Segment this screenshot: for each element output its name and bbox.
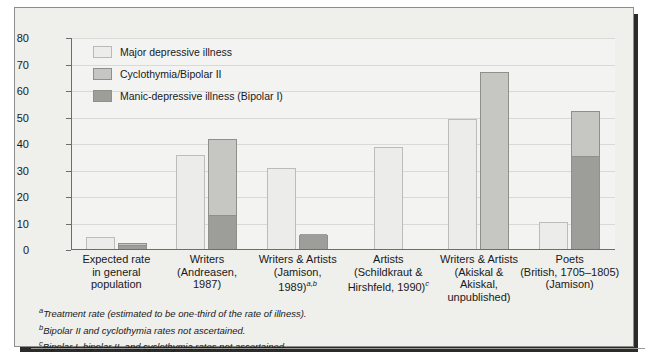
x-axis-label-line: unpublished)	[420, 291, 539, 304]
bar-segment-manic-depressive-bipolar-i	[209, 215, 236, 249]
bar-major-depressive-illness[interactable]	[448, 119, 477, 250]
bar-group	[434, 38, 525, 250]
footnote-divider	[31, 348, 645, 349]
footnotes: aTreatment rate (estimated to be one-thi…	[39, 304, 619, 354]
bar-major-depressive-illness[interactable]	[539, 222, 568, 250]
x-axis-line	[71, 249, 615, 250]
y-tick-label: 60	[0, 86, 29, 96]
y-tick-label: 70	[0, 60, 29, 70]
bar-stacked-bipolar[interactable]	[571, 111, 600, 250]
figure-container: Percentage Major depressive illnessCyclo…	[0, 0, 651, 356]
y-axis-line	[71, 38, 72, 250]
bar-major-depressive-illness[interactable]	[86, 237, 115, 250]
footnote: bBipolar II and cyclothymia rates not as…	[39, 321, 619, 338]
chart-panel: Percentage Major depressive illnessCyclo…	[14, 7, 634, 347]
y-tick-label: 0	[0, 245, 29, 255]
bar-group	[343, 38, 434, 250]
y-tick-label: 40	[0, 139, 29, 149]
x-axis-label: Poets(British, 1705–1805)(Jamison)	[510, 253, 629, 291]
y-tick-label: 80	[0, 33, 29, 43]
x-axis-label-line: (Jamison)	[510, 278, 629, 291]
bar-segment-manic-depressive-bipolar-i	[572, 156, 599, 249]
legend-label: Major depressive illness	[120, 46, 232, 58]
y-tick-label: 30	[0, 166, 29, 176]
legend-swatch	[93, 68, 112, 80]
y-tick-label: 20	[0, 192, 29, 202]
bar-major-depressive-illness[interactable]	[267, 168, 296, 250]
footnote: aTreatment rate (estimated to be one-thi…	[39, 304, 619, 321]
bar-stacked-bipolar[interactable]	[480, 72, 509, 250]
legend-item[interactable]: Major depressive illness	[93, 46, 283, 58]
footnote: cBipolar I, bipolar II, and cyclothymia …	[39, 337, 619, 354]
legend-item[interactable]: Cyclothymia/Bipolar II	[93, 68, 283, 80]
y-tick-mark	[66, 250, 71, 251]
x-axis-label-line: (British, 1705–1805)	[510, 266, 629, 279]
x-axis-category-labels: Expected ratein generalpopulationWriters…	[71, 253, 615, 309]
legend-item[interactable]: Manic-depressive illness (Bipolar I)	[93, 90, 283, 102]
legend-swatch	[93, 46, 112, 58]
plot-area: Major depressive illnessCyclothymia/Bipo…	[71, 38, 615, 250]
bar-group	[524, 38, 615, 250]
footnote-text: Treatment rate (estimated to be one-thir…	[43, 308, 306, 319]
y-tick-label: 10	[0, 219, 29, 229]
bar-stacked-bipolar[interactable]	[208, 139, 237, 250]
legend-label: Manic-depressive illness (Bipolar I)	[120, 90, 283, 102]
bar-major-depressive-illness[interactable]	[176, 155, 205, 250]
chart-legend: Major depressive illnessCyclothymia/Bipo…	[93, 46, 283, 112]
legend-swatch	[93, 90, 112, 102]
footnote-text: Bipolar I, bipolar II, and cyclothymia r…	[43, 341, 287, 352]
legend-label: Cyclothymia/Bipolar II	[120, 68, 222, 80]
bar-stacked-bipolar[interactable]	[299, 235, 328, 250]
x-axis-label-line: Poets	[510, 253, 629, 266]
bar-segment-manic-depressive-bipolar-i	[300, 234, 327, 249]
footnote-marker: a,b	[307, 279, 317, 288]
bar-major-depressive-illness[interactable]	[374, 147, 403, 250]
footnote-text: Bipolar II and cyclothymia rates not asc…	[43, 325, 245, 336]
y-tick-label: 50	[0, 113, 29, 123]
